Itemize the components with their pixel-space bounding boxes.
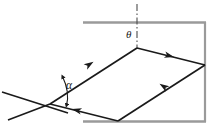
ray-segment-right-to-bottom [118,65,205,121]
arrowhead-upper-left-segment [84,59,96,70]
arrowhead-lower-right-segment [158,81,170,92]
optics-ray-diagram-figure: θ α [0,0,212,131]
ray-segment-bottom-to-entry [50,104,118,121]
alpha-angle-label: α [66,80,72,92]
ray-segment-entry-to-apex [50,48,137,104]
theta-angle-label: θ [126,29,131,40]
incident-ray-segment [8,104,50,120]
figure-canvas [0,0,212,131]
